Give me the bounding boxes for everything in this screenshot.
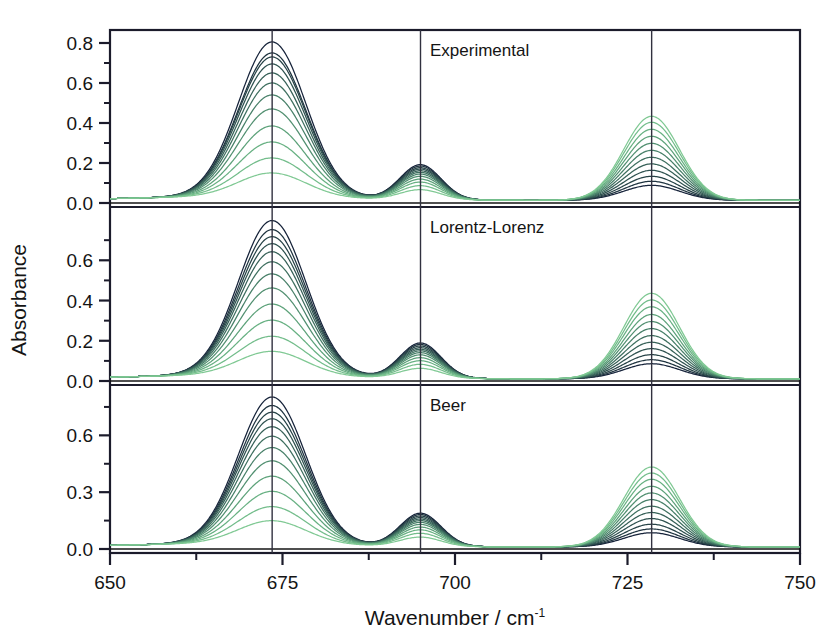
tick-labels-layer: 0.00.20.40.60.80.00.20.40.60.00.30.66506… — [67, 33, 816, 593]
axis-ticks-layer — [99, 43, 800, 565]
reference-lines-layer — [272, 30, 652, 553]
y-tick-label: 0.6 — [67, 250, 93, 271]
y-tick-label: 0.3 — [67, 482, 93, 503]
panel-label-3: Beer — [430, 396, 466, 415]
x-tick-label: 650 — [94, 572, 126, 593]
plot-border — [110, 30, 800, 553]
panel-1-curves — [110, 42, 800, 203]
x-axis-title-main: Wavenumber / cm — [365, 606, 535, 629]
panel-label-1: Experimental — [430, 41, 529, 60]
panel-labels-layer: ExperimentalLorentz-LorenzBeer — [430, 41, 544, 415]
y-tick-label: 0.2 — [67, 331, 93, 352]
x-tick-label: 750 — [784, 572, 816, 593]
spectra-plot: 0.00.20.40.60.80.00.20.40.60.00.30.66506… — [0, 0, 830, 643]
x-tick-label: 675 — [267, 572, 299, 593]
y-tick-label: 0.6 — [67, 73, 93, 94]
panel-3-curves — [110, 397, 800, 549]
panel-label-2: Lorentz-Lorenz — [430, 218, 544, 237]
x-axis-title-exponent: -1 — [534, 606, 545, 620]
x-tick-label: 700 — [439, 572, 471, 593]
y-tick-label: 0.4 — [67, 113, 94, 134]
y-tick-label: 0.0 — [67, 539, 93, 560]
y-tick-label: 0.0 — [67, 193, 93, 214]
panel-curves-layer — [110, 42, 800, 549]
panel-2-curves — [110, 221, 800, 381]
y-tick-label: 0.2 — [67, 153, 93, 174]
y-tick-label: 0.8 — [67, 33, 93, 54]
x-tick-label: 725 — [612, 572, 644, 593]
x-axis-title: Wavenumber / cm-1 — [365, 606, 546, 629]
y-tick-label: 0.0 — [67, 371, 93, 392]
figure-container: 0.00.20.40.60.80.00.20.40.60.00.30.66506… — [0, 0, 830, 643]
y-axis-title: Absorbance — [7, 244, 30, 356]
y-tick-label: 0.6 — [67, 425, 93, 446]
plot-frame — [110, 30, 800, 553]
y-tick-label: 0.4 — [67, 291, 94, 312]
